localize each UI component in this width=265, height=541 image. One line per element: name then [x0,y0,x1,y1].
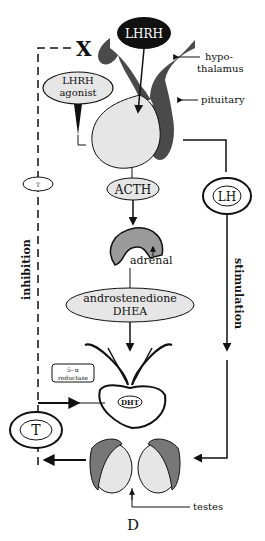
reductase-label-2: reductase [58,374,89,381]
pituitary-gland [92,95,160,168]
prostate [85,344,172,428]
lh-label: LH [218,190,236,204]
inhibition-label: inhibition [20,239,33,300]
acth-label: ACTH [114,183,151,197]
androgens-label-1: androstenedione [83,292,177,305]
small-t-label: T [36,181,40,188]
hypothalamus-label-1: hypo- [205,51,233,62]
block-mark: X [76,37,92,61]
testosterone-label: T [31,422,41,438]
lhrh-label: LHRH [125,27,163,41]
pituitary-label: pituitary [201,94,245,105]
lhrh-agonist-label-2: agonist [59,87,96,98]
adrenal-label: adrenal [130,254,173,267]
dht-label: DHT [121,398,140,407]
lhrh-agonist-label-1: LHRH [62,75,94,86]
testes [90,439,180,493]
hypothalamus-label-2: thalamus [197,63,244,74]
endocrine-pathway-diagram: LHRH hypo- thalamus pituitary X LHRH ago… [0,0,265,541]
stimulation-label: stimulation [232,258,245,329]
androgens-label-2: DHEA [113,305,148,318]
reductase-label-1: 5- α [67,366,79,373]
panel-letter: D [127,516,139,534]
testes-label: testes [193,501,223,512]
